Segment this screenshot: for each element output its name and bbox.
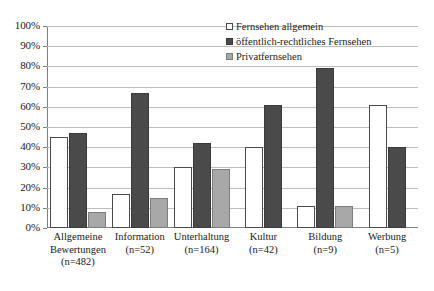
x-axis-label-line: (n=42) [233, 244, 295, 257]
legend-label: Privatfernsehen [236, 51, 302, 63]
y-tickmark [43, 228, 47, 229]
x-axis-label-line: Bildung [294, 231, 356, 244]
x-axis-label: Kultur(n=42) [233, 231, 295, 256]
y-tick-label: 100% [15, 20, 40, 31]
y-tick-label: 60% [20, 101, 40, 112]
x-axis-label-line: Unterhaltung [171, 231, 233, 244]
legend-item: öffentlich-rechtliches Fernsehen [226, 34, 426, 49]
bar-chart: 0%10%20%30%40%50%60%70%80%90%100% Allgem… [0, 0, 434, 291]
bar-group [47, 26, 109, 228]
y-tick-label: 30% [20, 161, 40, 172]
bar [212, 169, 230, 228]
x-axis-label: Werbung(n=5) [356, 231, 418, 256]
y-tick-label: 40% [20, 141, 40, 152]
bar [69, 133, 87, 228]
chart-legend: Fernsehen allgemeinöffentlich-rechtliche… [226, 19, 426, 64]
x-axis-label-line: Bewertungen [47, 244, 109, 257]
bar [88, 212, 106, 228]
bar [264, 105, 282, 228]
x-axis-label-line: Kultur [233, 231, 295, 244]
y-tick-label: 90% [20, 40, 40, 51]
legend-label: öffentlich-rechtliches Fernsehen [236, 36, 371, 48]
bar [335, 206, 353, 228]
y-tick-label: 70% [20, 81, 40, 92]
bar [174, 167, 192, 228]
y-tick-label: 50% [20, 121, 40, 132]
x-axis-label-line: (n=52) [109, 244, 171, 257]
x-axis-categories: AllgemeineBewertungen(n=482)Information(… [47, 231, 418, 289]
bar [369, 105, 387, 228]
bar [112, 194, 130, 228]
legend-item: Privatfernsehen [226, 49, 426, 64]
x-axis-label-line: Werbung [356, 231, 418, 244]
x-axis-label: AllgemeineBewertungen(n=482) [47, 231, 109, 269]
x-axis-label: Bildung(n=9) [294, 231, 356, 256]
bar [388, 147, 406, 228]
legend-swatch-icon [226, 23, 233, 30]
x-axis-label: Unterhaltung(n=164) [171, 231, 233, 256]
bar [131, 93, 149, 228]
x-axis-label: Information(n=52) [109, 231, 171, 256]
x-axis-label-line: (n=482) [47, 256, 109, 269]
x-axis-label-line: Allgemeine [47, 231, 109, 244]
bar [245, 147, 263, 228]
y-tick-label: 0% [26, 222, 40, 233]
bar [193, 143, 211, 228]
bar [50, 137, 68, 228]
x-axis-label-line: (n=9) [294, 244, 356, 257]
y-tick-label: 80% [20, 60, 40, 71]
bar [150, 198, 168, 228]
x-axis-label-line: Information [109, 231, 171, 244]
y-tick-label: 10% [20, 202, 40, 213]
bar [297, 206, 315, 228]
legend-swatch-icon [226, 53, 233, 60]
y-axis: 0%10%20%30%40%50%60%70%80%90%100% [0, 20, 44, 236]
x-axis-label-line: (n=5) [356, 244, 418, 257]
legend-item: Fernsehen allgemein [226, 19, 426, 34]
x-axis-label-line: (n=164) [171, 244, 233, 257]
legend-swatch-icon [226, 38, 233, 45]
legend-label: Fernsehen allgemein [236, 21, 323, 33]
bar-group [109, 26, 171, 228]
bar-group [171, 26, 233, 228]
bar [316, 68, 334, 228]
y-tick-label: 20% [20, 182, 40, 193]
